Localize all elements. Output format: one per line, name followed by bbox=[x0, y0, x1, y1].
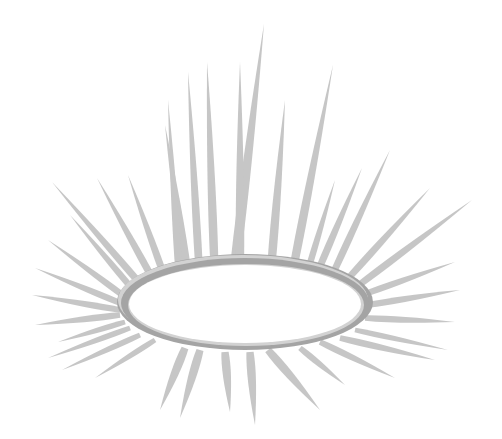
ray-spike bbox=[343, 188, 430, 284]
ray-spike bbox=[221, 352, 231, 412]
ray-spike bbox=[368, 290, 460, 308]
ray-spike bbox=[228, 24, 264, 291]
ray-spike bbox=[188, 72, 203, 285]
halo-graphic bbox=[0, 0, 502, 439]
rays-group bbox=[32, 24, 472, 425]
ring-hole bbox=[129, 265, 361, 343]
ray-spike bbox=[207, 62, 219, 282]
ray-spike bbox=[327, 150, 390, 281]
ray-spike bbox=[365, 315, 455, 322]
ray-spike bbox=[246, 352, 256, 425]
halo-ring bbox=[117, 254, 373, 350]
ray-spike bbox=[236, 62, 245, 282]
halo-illustration: halo-with-radiating-rays bbox=[0, 0, 502, 439]
ray-spike bbox=[35, 312, 120, 325]
